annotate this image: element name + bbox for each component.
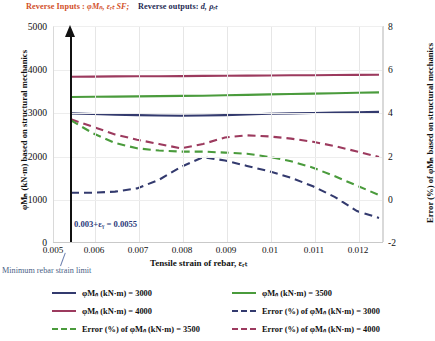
legend-label: φMₙ (kN·m) = 3500 bbox=[262, 288, 332, 298]
legend-item-phimn-3500[interactable]: φMₙ (kN·m) = 3500 bbox=[232, 288, 332, 298]
y-right-tick: 4 bbox=[388, 107, 418, 118]
title-inputs-vars: φMₙ, εᵣₜ SF; bbox=[87, 2, 129, 11]
strain-limit-equation-label: 0.003+εᵧ = 0.0055 bbox=[74, 219, 137, 229]
y-left-axis-title: φMₙ (kN·m) based on structural mechanics bbox=[19, 20, 29, 240]
x-axis-title: Tensile strain of rebar, εᵣₜ bbox=[150, 258, 248, 268]
legend-label: φMₙ (kN·m) = 4000 bbox=[82, 306, 152, 316]
series-canvas bbox=[54, 27, 384, 243]
gridline-vertical bbox=[183, 27, 184, 242]
legend-swatch-solid-maroon bbox=[52, 310, 76, 312]
legend-item-error-3500[interactable]: Error (%) of φMₙ (kN·m) = 3500 bbox=[52, 324, 200, 334]
gridline-horizontal bbox=[54, 113, 382, 114]
legend-label: Error (%) of φMₙ (kN·m) = 3000 bbox=[262, 306, 380, 316]
legend-swatch-dashed-blue bbox=[232, 310, 256, 312]
legend-swatch-dashed-green bbox=[52, 328, 76, 330]
gridline-vertical bbox=[271, 27, 272, 242]
legend-swatch-dashed-maroon bbox=[232, 328, 256, 330]
chart-title: Reverse Inputs : φMₙ, εᵣₜ SF; Reverse ou… bbox=[26, 1, 218, 11]
title-outputs-vars: d, ρᵣₜ bbox=[201, 2, 218, 11]
legend-swatch-solid-blue bbox=[52, 292, 76, 294]
title-outputs-label: Reverse outputs: bbox=[138, 2, 199, 11]
legend-label: Error (%) of φMₙ (kN·m) = 4000 bbox=[262, 324, 380, 334]
y-right-tick: 2 bbox=[388, 151, 418, 162]
gridline-vertical bbox=[315, 27, 316, 242]
series-line-error-3000 bbox=[71, 157, 379, 218]
legend-item-phimn-4000[interactable]: φMₙ (kN·m) = 4000 bbox=[52, 306, 152, 316]
chart-legend: φMₙ (kN·m) = 3000 φMₙ (kN·m) = 3500 φMₙ … bbox=[0, 288, 432, 341]
x-tick: 0.012 bbox=[328, 245, 388, 255]
series-line-error-4000 bbox=[71, 119, 379, 157]
gridline-vertical bbox=[139, 27, 140, 242]
strain-limit-arrow-shaft bbox=[70, 30, 72, 242]
series-line-phimn-3500 bbox=[71, 92, 379, 97]
gridline-vertical bbox=[95, 27, 96, 242]
legend-swatch-solid-green bbox=[232, 292, 256, 294]
legend-item-phimn-3000[interactable]: φMₙ (kN·m) = 3000 bbox=[52, 288, 152, 298]
y-right-axis-title: Error (%) of φMₙ based on structural mec… bbox=[425, 18, 435, 248]
legend-label: Error (%) of φMₙ (kN·m) = 3500 bbox=[82, 324, 200, 334]
plot-area bbox=[53, 26, 383, 242]
legend-item-error-3000[interactable]: Error (%) of φMₙ (kN·m) = 3000 bbox=[232, 306, 380, 316]
gridline-horizontal bbox=[54, 157, 382, 158]
y-right-axis-line bbox=[383, 26, 384, 242]
strain-limit-arrow-head bbox=[65, 25, 75, 37]
min-rebar-strain-limit-label: Minimum rebar strain limit bbox=[2, 266, 91, 275]
legend-label: φMₙ (kN·m) = 3000 bbox=[82, 288, 152, 298]
gridline-vertical bbox=[227, 27, 228, 242]
gridline-horizontal bbox=[54, 200, 382, 201]
y-right-tick: 8 bbox=[388, 21, 418, 32]
series-line-phimn-4000 bbox=[71, 75, 379, 77]
x-axis-line bbox=[53, 242, 383, 243]
y-right-tick: 6 bbox=[388, 64, 418, 75]
y-right-tick: -2 bbox=[388, 237, 418, 248]
gridline-vertical bbox=[359, 27, 360, 242]
gridline-horizontal bbox=[54, 70, 382, 71]
y-right-tick: 0 bbox=[388, 194, 418, 205]
legend-item-error-4000[interactable]: Error (%) of φMₙ (kN·m) = 4000 bbox=[232, 324, 380, 334]
title-inputs-label: Reverse Inputs : bbox=[26, 2, 85, 11]
